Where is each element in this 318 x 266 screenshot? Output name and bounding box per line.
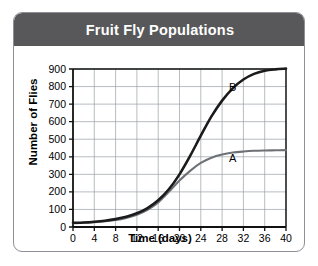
svg-text:600: 600 [48, 115, 66, 127]
svg-text:20: 20 [174, 232, 186, 244]
svg-text:24: 24 [195, 232, 207, 244]
svg-text:900: 900 [48, 63, 66, 75]
line-chart-svg: 0100200300400500600700800900048121620242… [14, 46, 305, 252]
gridlines [73, 69, 286, 227]
svg-text:200: 200 [48, 185, 66, 197]
plot-container: Number of Flies Time (days) 010020030040… [14, 46, 305, 252]
curve-labels: AB [229, 81, 237, 164]
svg-text:4: 4 [91, 232, 97, 244]
svg-text:0: 0 [60, 221, 66, 233]
svg-text:700: 700 [48, 98, 66, 110]
svg-text:40: 40 [280, 232, 292, 244]
svg-text:400: 400 [48, 150, 66, 162]
svg-text:800: 800 [48, 80, 66, 92]
svg-text:300: 300 [48, 168, 66, 180]
curve-label-b: B [229, 81, 236, 93]
svg-text:0: 0 [70, 232, 76, 244]
chart-card: Fruit Fly Populations Number of Flies Ti… [13, 12, 305, 252]
svg-text:100: 100 [48, 203, 66, 215]
svg-text:8: 8 [113, 232, 119, 244]
axis-tick-labels: 0100200300400500600700800900048121620242… [48, 63, 292, 244]
svg-text:16: 16 [152, 232, 164, 244]
svg-text:32: 32 [238, 232, 250, 244]
svg-text:500: 500 [48, 133, 66, 145]
svg-text:36: 36 [259, 232, 271, 244]
chart-title-bar: Fruit Fly Populations [14, 13, 305, 46]
svg-text:28: 28 [216, 232, 228, 244]
svg-text:12: 12 [131, 232, 143, 244]
curve-label-a: A [229, 152, 237, 164]
page-title: Fruit Fly Populations [86, 22, 234, 38]
